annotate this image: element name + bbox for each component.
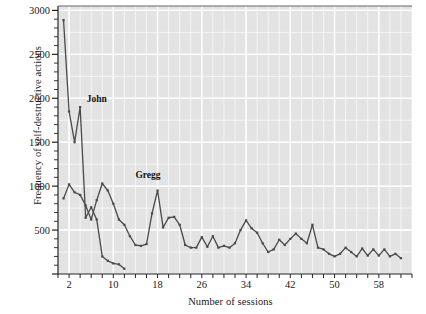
data-point bbox=[101, 255, 103, 257]
data-point bbox=[223, 245, 225, 247]
data-point bbox=[206, 246, 208, 248]
data-point bbox=[350, 251, 352, 253]
data-point bbox=[311, 224, 313, 226]
data-point bbox=[107, 260, 109, 262]
data-point bbox=[62, 19, 64, 21]
annotation-gregg: Gregg bbox=[135, 170, 160, 180]
data-point bbox=[156, 189, 158, 191]
data-point bbox=[300, 238, 302, 240]
data-point bbox=[400, 257, 402, 259]
data-point bbox=[123, 224, 125, 226]
data-point bbox=[328, 253, 330, 255]
data-point bbox=[195, 247, 197, 249]
data-point bbox=[378, 254, 380, 256]
data-point bbox=[217, 247, 219, 249]
data-point bbox=[273, 248, 275, 250]
data-point bbox=[322, 248, 324, 250]
data-point bbox=[317, 247, 319, 249]
data-point bbox=[118, 263, 120, 265]
plot-area bbox=[0, 0, 426, 314]
data-point bbox=[73, 191, 75, 193]
data-point bbox=[262, 242, 264, 244]
data-point bbox=[383, 248, 385, 250]
annotation-john: John bbox=[87, 94, 107, 104]
data-point bbox=[372, 248, 374, 250]
data-point bbox=[112, 262, 114, 264]
data-point bbox=[356, 255, 358, 257]
data-point bbox=[361, 247, 363, 249]
data-point bbox=[333, 255, 335, 257]
data-point bbox=[112, 203, 114, 205]
data-point bbox=[179, 224, 181, 226]
chart-figure: Frequency of self-destructive actions 50… bbox=[0, 0, 426, 314]
data-point bbox=[123, 268, 125, 270]
data-point bbox=[267, 251, 269, 253]
data-point bbox=[394, 253, 396, 255]
data-point bbox=[190, 247, 192, 249]
data-point bbox=[101, 182, 103, 184]
data-point bbox=[134, 244, 136, 246]
data-point bbox=[306, 242, 308, 244]
data-point bbox=[239, 229, 241, 231]
data-point bbox=[278, 239, 280, 241]
data-point bbox=[145, 243, 147, 245]
data-point bbox=[234, 242, 236, 244]
data-point bbox=[389, 255, 391, 257]
data-point bbox=[90, 206, 92, 208]
data-point bbox=[151, 212, 153, 214]
data-point bbox=[184, 244, 186, 246]
data-point bbox=[228, 247, 230, 249]
data-point bbox=[162, 226, 164, 228]
data-point bbox=[118, 218, 120, 220]
data-point bbox=[339, 253, 341, 255]
data-point bbox=[284, 244, 286, 246]
data-point bbox=[345, 247, 347, 249]
data-point bbox=[107, 189, 109, 191]
data-point bbox=[140, 245, 142, 247]
data-point bbox=[96, 218, 98, 220]
data-point bbox=[201, 236, 203, 238]
data-point bbox=[68, 110, 70, 112]
data-point bbox=[245, 219, 247, 221]
data-point bbox=[129, 235, 131, 237]
data-point bbox=[62, 197, 64, 199]
data-point bbox=[212, 235, 214, 237]
data-point bbox=[73, 141, 75, 143]
data-point bbox=[367, 254, 369, 256]
data-point bbox=[173, 216, 175, 218]
data-point bbox=[250, 227, 252, 229]
data-point bbox=[85, 217, 87, 219]
data-point bbox=[90, 218, 92, 220]
data-point bbox=[256, 232, 258, 234]
data-point bbox=[85, 204, 87, 206]
data-point bbox=[68, 183, 70, 185]
data-point bbox=[79, 194, 81, 196]
data-point bbox=[295, 232, 297, 234]
data-point bbox=[289, 238, 291, 240]
data-point bbox=[168, 217, 170, 219]
data-point bbox=[96, 199, 98, 201]
data-point bbox=[79, 106, 81, 108]
